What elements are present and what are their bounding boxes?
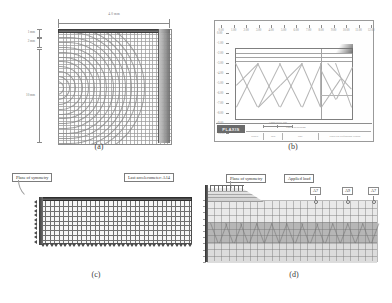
mesh-vertical-line <box>322 201 323 261</box>
dimension-tick-top <box>37 49 42 50</box>
accelerometer-marker-2: A9 <box>342 178 353 204</box>
support-roller <box>34 213 37 217</box>
support-triangle <box>77 244 81 247</box>
support-triangle <box>143 244 147 247</box>
mesh-horizontal-line <box>207 249 377 250</box>
y-axis-tick <box>226 63 229 64</box>
support-triangle <box>112 244 116 247</box>
mesh-vertical-line <box>221 201 222 261</box>
x-axis-tick-label: 10.00 <box>343 28 350 32</box>
y-axis-tick <box>226 83 229 84</box>
plaxis-y-axis: 0.00-1.00-2.00-3.00-4.00-5.00-6.00-7.00-… <box>217 33 229 133</box>
x-axis-tick-label: 11.00 <box>355 28 362 32</box>
mesh-vertical-line <box>162 201 163 243</box>
support-triangle <box>41 244 45 247</box>
support-triangle <box>68 244 72 247</box>
mesh-horizontal-line <box>41 230 191 231</box>
support-roller <box>34 209 37 213</box>
mesh-horizontal-line <box>207 222 377 223</box>
plaxis-mesh-plot <box>235 48 353 120</box>
support-roller <box>34 204 37 208</box>
mesh-vertical-line <box>59 201 60 243</box>
panel-a-left-dimension-2: 2 mm <box>26 38 42 48</box>
panel-c-top-beam <box>40 197 192 201</box>
y-axis-tick <box>226 33 229 34</box>
support-triangle <box>54 244 58 247</box>
support-triangle <box>108 244 112 247</box>
panel-a-axisymmetric-mesh: 4.0 mm 1 mm 2 mm 10 mm (a) <box>0 0 196 152</box>
mesh-distortion-ring <box>58 29 145 145</box>
x-axis-tick-label: 9.00 <box>331 28 336 32</box>
leader-line-load-d <box>276 181 289 190</box>
support-triangle <box>59 244 63 247</box>
panel-c-symmetry-boundary <box>39 197 43 245</box>
plaxis-title-block: PLAXIS Project description Project Step … <box>216 123 372 140</box>
panel-a-top-dimension: 4.0 mm <box>58 18 170 25</box>
support-roller <box>34 231 37 235</box>
title-cell-project: Project <box>246 133 263 140</box>
y-axis-tick-label: 0.00 <box>217 31 222 35</box>
mesh-vertical-line <box>236 201 237 261</box>
support-triangle <box>72 244 76 247</box>
accelerometer-dot-3 <box>372 200 376 204</box>
support-triangle <box>126 244 130 247</box>
support-triangle <box>50 244 54 247</box>
mesh-vertical-line <box>257 201 258 261</box>
panel-a-mesh-frame <box>58 29 172 145</box>
mesh-vertical-line <box>86 201 87 243</box>
mesh-vertical-line <box>279 201 280 261</box>
panel-d-layered-soil-mesh: Plane of symmetry Applied load A7 A9 A7 … <box>196 152 392 303</box>
panel-a-left-dimension-1-label: 1 mm <box>28 30 35 34</box>
dimension-tick-top <box>37 29 42 30</box>
accelerometer-marker-3: A7 <box>368 178 379 204</box>
panel-b-plaxis-output: 0.001.002.003.004.005.006.007.008.009.00… <box>196 0 392 152</box>
load-arrow <box>222 185 223 191</box>
soil-layer-upper <box>207 201 377 222</box>
mesh-vertical-line <box>293 201 294 261</box>
support-triangle <box>90 244 94 247</box>
x-axis-tick-label: 2.00 <box>243 28 248 32</box>
mesh-layer-line <box>236 61 352 62</box>
mesh-vertical-line <box>81 201 82 243</box>
y-axis-tick-label: -1.00 <box>217 41 223 45</box>
mesh-vertical-line <box>166 201 167 243</box>
mesh-vertical-line <box>117 201 118 243</box>
support-roller <box>34 222 37 226</box>
support-roller <box>34 200 37 204</box>
mesh-vertical-line <box>286 201 287 261</box>
panel-d-symmetry-boundary <box>205 185 208 262</box>
mesh-vertical-line <box>99 201 100 243</box>
support-triangle <box>175 244 179 247</box>
support-roller <box>34 235 37 239</box>
plaxis-dense-mesh-wedge <box>331 44 353 53</box>
support-triangle <box>45 244 49 247</box>
mesh-vertical-line <box>264 201 265 261</box>
mesh-vertical-line <box>139 201 140 243</box>
x-axis-tick-label: 12.00 <box>368 28 375 32</box>
mesh-horizontal-line <box>207 229 377 230</box>
panel-d-soil-body <box>206 200 378 262</box>
mesh-layer-line <box>236 57 352 58</box>
x-axis-tick-label: 8.00 <box>318 28 323 32</box>
mesh-vertical-line <box>175 201 176 243</box>
mesh-horizontal-line <box>207 256 377 257</box>
mesh-layer-line <box>236 53 352 54</box>
plaxis-x-axis: 0.001.002.003.004.005.006.007.008.009.00… <box>221 25 371 34</box>
mesh-vertical-line <box>171 201 172 243</box>
plaxis-project-description-label: Project description <box>286 126 306 129</box>
mesh-vertical-line <box>113 201 114 243</box>
plaxis-title-block-header: Project description <box>246 125 371 132</box>
support-triangle <box>99 244 103 247</box>
mesh-vertical-line <box>184 201 185 243</box>
dimension-tick-top <box>37 38 42 39</box>
mesh-vertical-line <box>307 201 308 261</box>
panel-d-load-arrows <box>210 185 244 192</box>
support-triangle <box>179 244 183 247</box>
x-axis-tick-label: 4.00 <box>268 28 273 32</box>
plaxis-sheet: 0.001.002.003.004.005.006.007.008.009.00… <box>214 20 374 142</box>
load-arrow <box>242 185 243 191</box>
title-cell-step: Step <box>263 133 281 140</box>
mesh-vertical-line <box>372 201 373 261</box>
y-axis-tick <box>226 93 229 94</box>
mesh-vertical-line <box>90 201 91 243</box>
